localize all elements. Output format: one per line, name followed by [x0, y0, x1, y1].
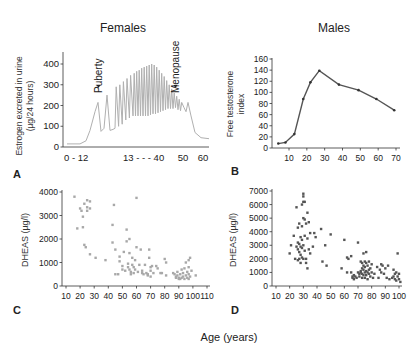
scatter-point — [396, 275, 398, 277]
scatter-point — [302, 193, 304, 195]
scatter-point — [295, 245, 297, 247]
scatter-point — [124, 270, 126, 272]
scatter-point — [290, 244, 292, 246]
scatter-point — [364, 277, 366, 279]
x-tick-label: 30 — [89, 291, 99, 301]
y-tick-label: 20 — [259, 132, 269, 142]
scatter-point — [343, 239, 345, 241]
scatter-point — [148, 257, 150, 259]
y-tick-label: 1000 — [39, 258, 58, 268]
scatter-point — [138, 264, 140, 266]
y-tick-label: 60 — [259, 110, 269, 120]
scatter-point — [346, 271, 348, 273]
scatter-point — [321, 260, 323, 262]
x-tick-label: 40 — [338, 153, 348, 163]
scatter-point — [392, 275, 394, 277]
panel-a-ylabel-2: (µg/24 hours) — [25, 80, 35, 131]
scatter-point — [381, 264, 383, 266]
title-females: Females — [100, 21, 146, 35]
scatter-point — [187, 278, 189, 280]
panel-a-estrogen-chart: Estrogen excreted in urine (µg/24 hours)… — [13, 40, 209, 180]
panel-d-axes: 0100020003000400050006000700010203040506… — [249, 186, 406, 301]
data-point — [293, 133, 296, 136]
scatter-point — [395, 279, 397, 281]
x-tick-label: 40 — [104, 291, 114, 301]
panel-label-a: A — [13, 168, 21, 180]
x-tick-label: 60 — [373, 153, 383, 163]
scatter-point — [304, 201, 306, 203]
data-point — [318, 69, 321, 72]
scatter-point — [353, 278, 355, 280]
x-axis-label-age: Age (years) — [201, 331, 258, 343]
scatter-point — [161, 272, 163, 274]
scatter-point — [176, 274, 178, 276]
scatter-point — [179, 273, 181, 275]
scatter-point — [350, 271, 352, 273]
y-tick-label: 200 — [43, 100, 59, 111]
scatter-point — [368, 273, 370, 275]
scatter-point — [127, 262, 129, 264]
scatter-point — [298, 243, 300, 245]
scatter-point — [396, 252, 398, 254]
scatter-point — [173, 273, 175, 275]
scatter-point — [294, 258, 296, 260]
scatter-point — [114, 248, 116, 250]
scatter-point — [325, 264, 327, 266]
scatter-point — [125, 240, 127, 242]
y-tick-label: 100 — [254, 87, 268, 97]
x-tick-label: 50 — [326, 291, 336, 301]
scatter-point — [130, 271, 132, 273]
panel-b-testosterone-chart: Free testosterone index 0204060801001201… — [225, 54, 401, 177]
y-tick-label: 0 — [263, 143, 268, 153]
scatter-point — [149, 270, 151, 272]
scatter-point — [365, 251, 367, 253]
x-tick-label: 90 — [174, 291, 184, 301]
title-males: Males — [318, 21, 350, 35]
scatter-point — [142, 273, 144, 275]
scatter-point — [132, 266, 134, 268]
y-tick-label: 7000 — [249, 186, 268, 196]
x-tick-label: 70 — [391, 153, 401, 163]
panel-b-data-points — [277, 69, 396, 144]
x-tick-label: 60 — [340, 291, 350, 301]
scatter-point — [175, 277, 177, 279]
scatter-point — [387, 264, 389, 266]
scatter-point — [388, 278, 390, 280]
scatter-point — [365, 262, 367, 264]
scatter-point — [89, 200, 91, 202]
x-tick-label: 100 — [392, 291, 406, 301]
scatter-point — [165, 261, 167, 263]
scatter-point — [302, 258, 304, 260]
scatter-point — [379, 269, 381, 271]
x-tick-label: 20 — [302, 153, 312, 163]
data-point — [302, 98, 305, 101]
scatter-point — [309, 232, 311, 234]
scatter-point — [299, 262, 301, 264]
scatter-point — [127, 266, 129, 268]
scatter-point — [147, 274, 149, 276]
scatter-point — [313, 232, 315, 234]
scatter-point — [189, 275, 191, 277]
x-tick-label: 80 — [160, 291, 170, 301]
y-tick-label: 1000 — [249, 267, 268, 277]
scatter-point — [362, 269, 364, 271]
scatter-point — [370, 263, 372, 265]
scatter-point — [309, 252, 311, 254]
scatter-point — [190, 270, 192, 272]
x-tick-label: 20 — [75, 291, 85, 301]
y-tick-label: 4000 — [39, 187, 58, 197]
panel-label-b: B — [231, 165, 239, 177]
scatter-point — [308, 248, 310, 250]
scatter-point — [183, 278, 185, 280]
x-tick-label: 90 — [381, 291, 391, 301]
x-tick-label: 50 — [356, 153, 366, 163]
scatter-point — [118, 255, 120, 257]
panel-c-scatter-points — [73, 196, 197, 281]
scatter-point — [89, 207, 91, 209]
x-tick-label: 30 — [299, 291, 309, 301]
x-tick-label: 10 — [284, 153, 294, 163]
scatter-point — [298, 222, 300, 224]
scatter-point — [361, 262, 363, 264]
scatter-point — [176, 271, 178, 273]
scatter-point — [301, 247, 303, 249]
